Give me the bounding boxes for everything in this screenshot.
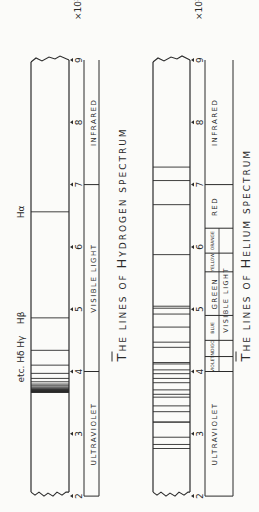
- helium-visible-light-label: VISIBLE LIGHT: [222, 267, 230, 333]
- tick-arrow-icon: [191, 245, 194, 249]
- helium-region-blue: BLUE: [210, 322, 215, 334]
- tick-arrow-icon: [191, 120, 194, 124]
- tick-arrow-icon: [191, 370, 194, 374]
- tick-label: 9: [195, 57, 205, 63]
- helium-region-infrared: INFRARED: [211, 99, 219, 146]
- diagram-stage: 23456789×10³ Å23456789×10³ ÅULTRAVIOLETV…: [0, 0, 259, 512]
- tick-label: 5: [195, 306, 205, 312]
- tick-label: 3: [74, 431, 84, 437]
- helium-torn-end: [153, 492, 190, 496]
- tick-arrow-icon: [70, 120, 73, 124]
- tick-arrow-icon: [70, 307, 73, 311]
- axis-unit: ×10³ Å: [193, 0, 204, 20]
- helium-region-violet: VIOLET: [210, 356, 215, 372]
- helium-region-red: RED: [211, 197, 219, 216]
- tick-label: 7: [74, 182, 84, 188]
- axis-unit: ×10³ Å: [72, 0, 83, 20]
- tick-arrow-icon: [191, 432, 194, 436]
- tick-label: 9: [74, 57, 84, 63]
- tick-arrow-icon: [70, 183, 73, 187]
- hydrogen-line-label: etc. Hδ Hγ: [16, 335, 26, 383]
- helium-title: THE LINES OF HELIUM SPECTRUM: [238, 149, 253, 363]
- helium-region-green: GREEN: [211, 278, 219, 310]
- hydrogen-region-ultraviolet: ULTRAVIOLET: [90, 402, 98, 465]
- hydrogen-torn-end: [31, 492, 69, 496]
- tick-label: 4: [74, 368, 84, 374]
- tick-arrow-icon: [70, 432, 73, 436]
- tick-label: 7: [195, 182, 205, 188]
- tick-arrow-icon: [70, 370, 73, 374]
- tick-label: 3: [195, 431, 205, 437]
- tick-label: 4: [195, 368, 205, 374]
- tick-label: 8: [74, 119, 84, 125]
- helium-region-ultraviolet: ULTRAVIOLET: [211, 402, 219, 465]
- tick-label: 6: [74, 244, 84, 250]
- tick-label: 8: [195, 119, 205, 125]
- tick-label: 6: [195, 244, 205, 250]
- tick-label: 2: [74, 493, 84, 499]
- hydrogen-region-visible light: VISIBLE LIGHT: [90, 243, 98, 312]
- helium-region-indigo: INDIGO: [210, 340, 215, 357]
- helium-region-orange: ORANGE: [210, 231, 215, 250]
- tick-arrow-icon: [191, 183, 194, 187]
- tick-arrow-icon: [191, 58, 194, 62]
- tick-label: 2: [195, 493, 205, 499]
- hydrogen-title: THE LINES OF HYDROGEN SPECTRUM: [114, 127, 129, 362]
- tick-arrow-icon: [191, 307, 194, 311]
- helium-region-yellow: YELLOW: [210, 253, 215, 273]
- hydrogen-line-label: Hα: [16, 205, 26, 218]
- helium-torn-end: [153, 56, 190, 62]
- hydrogen-region-infrared: INFRARED: [90, 99, 98, 146]
- tick-arrow-icon: [191, 494, 194, 498]
- tick-label: 5: [74, 306, 84, 312]
- hydrogen-line-label: Hβ: [16, 311, 26, 324]
- hydrogen-torn-end: [31, 56, 69, 62]
- tick-arrow-icon: [70, 58, 73, 62]
- spectrum-diagram: 23456789×10³ Å23456789×10³ ÅULTRAVIOLETV…: [0, 0, 259, 512]
- tick-arrow-icon: [70, 494, 73, 498]
- tick-arrow-icon: [70, 245, 73, 249]
